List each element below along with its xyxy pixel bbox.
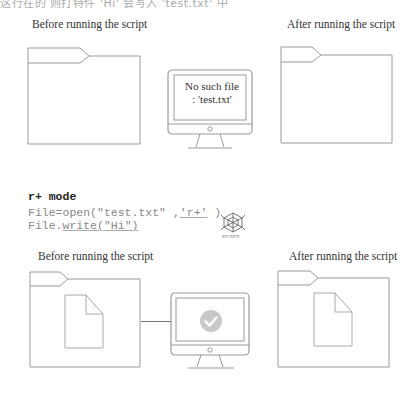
folder-with-file-icon xyxy=(29,271,144,371)
code-line-2-prefix: File. xyxy=(28,219,63,232)
folder-icon xyxy=(280,46,395,146)
code-mode-arg: 'r+' xyxy=(180,206,208,219)
code-block: r+ mode File=open("test.txt" ,'r+' ) Fil… xyxy=(28,190,221,232)
code-line-2: File.write("Hi") xyxy=(28,219,221,232)
after-caption-2: After running the script xyxy=(289,250,397,262)
code-line-1-prefix: File=open("test.txt" , xyxy=(28,206,180,219)
spyder-logo-icon xyxy=(220,212,246,234)
error-line-2: : 'test.txt' xyxy=(176,93,248,106)
code-line-2-suffix: ("Hi") xyxy=(97,219,138,232)
connector-line xyxy=(141,321,171,322)
code-write-method: write xyxy=(63,219,98,232)
monitor-error-message: No such file : 'test.txt' xyxy=(176,80,248,106)
check-circle-icon xyxy=(199,309,223,333)
code-line-1: File=open("test.txt" ,'r+' ) xyxy=(28,206,221,219)
spyder-logo-label: SPYDER xyxy=(222,234,240,239)
header-text-fragment: 这行在的 则打特件 'Hi' 会写入 'test.txt' 中 xyxy=(0,0,228,10)
folder-icon xyxy=(27,47,142,147)
after-caption-1: After running the script xyxy=(287,18,395,30)
error-line-1: No such file xyxy=(176,80,248,93)
monitor-icon xyxy=(170,292,256,378)
before-caption-1: Before running the script xyxy=(32,18,147,30)
folder-with-file-icon xyxy=(277,270,392,370)
code-title: r+ mode xyxy=(28,190,221,203)
before-caption-2: Before running the script xyxy=(38,250,153,262)
